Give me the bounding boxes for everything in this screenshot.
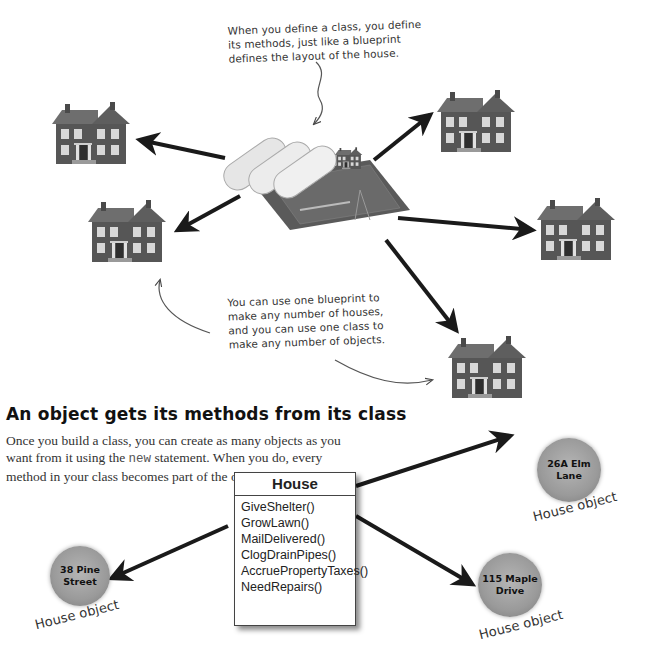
method-item: GiveShelter() — [241, 499, 349, 515]
object-26a-elm-lane: 26A Elm Lane — [537, 438, 601, 502]
object-address: 115 Maple — [482, 573, 538, 585]
class-name: House — [235, 473, 355, 496]
object-address: Lane — [547, 470, 591, 482]
object-address: 38 Pine — [60, 564, 100, 576]
method-item: AccruePropertyTaxes() — [241, 563, 349, 579]
object-address: 26A Elm — [547, 458, 591, 470]
object-38-pine-street: 38 Pine Street — [50, 546, 110, 606]
house-image — [52, 104, 132, 166]
house-image — [537, 200, 617, 262]
object-address: Street — [60, 576, 100, 588]
house-image — [448, 338, 528, 400]
method-item: MailDelivered() — [241, 531, 349, 547]
method-item: ClogDrainPipes() — [241, 547, 349, 563]
method-item: NeedRepairs() — [241, 579, 349, 595]
object-115-maple-drive: 115 Maple Drive — [478, 553, 542, 617]
objects-annotation: You can use one blueprint to make any nu… — [227, 289, 429, 352]
house-image — [88, 202, 168, 264]
blueprint-image — [210, 120, 410, 230]
house-image — [437, 92, 517, 154]
class-box-house: House GiveShelter() GrowLawn() MailDeliv… — [234, 472, 356, 626]
object-address: Drive — [482, 585, 538, 597]
method-list: GiveShelter() GrowLawn() MailDelivered()… — [235, 496, 355, 598]
method-item: GrowLawn() — [241, 515, 349, 531]
